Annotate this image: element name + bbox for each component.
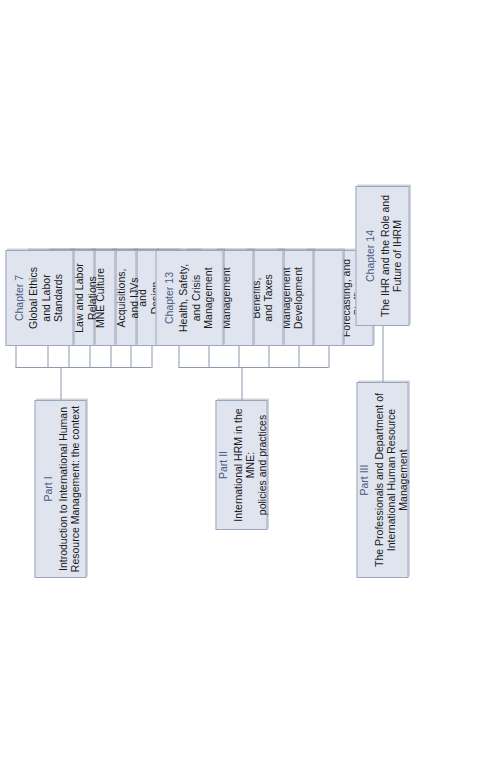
part-3-label: Part III <box>357 465 369 496</box>
part-3-trunk <box>382 326 383 382</box>
part-3-title: The Professionals and Department of Inte… <box>372 386 409 574</box>
org-chart-canvas: Part I Introduction to International Hum… <box>0 0 495 766</box>
chapter-14-title: The IHR and the Role and Future of IHRM <box>378 195 403 317</box>
chapter-14-node[interactable]: Chapter 14 The IHR and the Role and Futu… <box>355 186 409 326</box>
chapter-14-label: Chapter 14 <box>363 230 375 282</box>
part-3-band: Part III The Professionals and Departmen… <box>0 0 495 766</box>
part-3-node[interactable]: Part III The Professionals and Departmen… <box>356 382 408 578</box>
